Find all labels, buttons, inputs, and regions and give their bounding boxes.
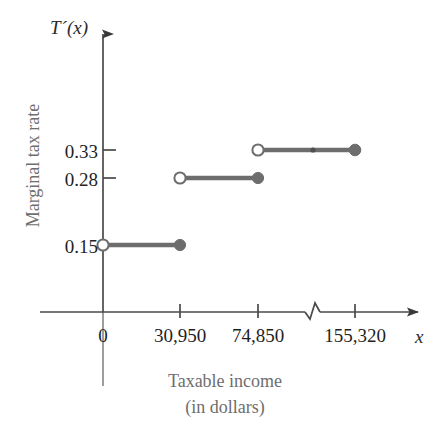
x-tick-label-0: 0	[86, 326, 120, 345]
step-filled-marker-015	[174, 239, 185, 250]
x-axis-break-zigzag	[305, 303, 320, 319]
chart-canvas	[0, 0, 441, 434]
y-axis-title-wrapper: Marginal tax rate	[23, 71, 44, 261]
y-axis-title: Marginal tax rate	[23, 104, 43, 228]
step-filled-marker-028	[252, 172, 263, 183]
tax-rate-step-chart: T´(x) 0.33 0.28 0.15 0 30,950 74,850 155…	[0, 0, 441, 434]
step-open-marker-015	[97, 239, 108, 250]
step-filled-marker-033	[349, 144, 361, 156]
x-tick-label-74850: 74,850	[210, 326, 306, 345]
x-axis-title-line2: (in dollars)	[110, 398, 340, 416]
x-tick-label-155320: 155,320	[303, 326, 407, 345]
step-open-marker-028	[174, 172, 185, 183]
y-axis-symbol-label: T´(x)	[50, 18, 88, 37]
step-open-marker-033	[252, 144, 263, 155]
x-axis-symbol-label: x	[415, 327, 423, 346]
step-break-dot-033	[310, 147, 315, 152]
x-axis-title-line1: Taxable income	[110, 372, 340, 390]
